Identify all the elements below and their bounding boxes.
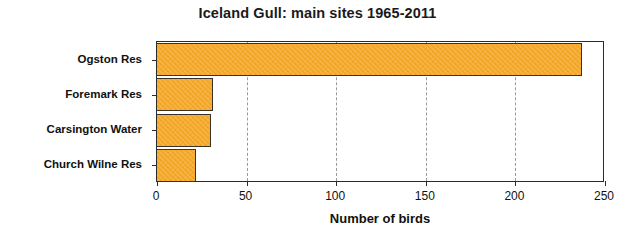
bar-row [157,43,603,76]
x-tick-100 [336,181,337,186]
y-tick-1 [152,95,157,96]
bars-layer [157,42,603,181]
bar-0[interactable] [157,43,582,76]
x-tick-label-100: 100 [325,189,345,203]
y-axis-label-3: Church Wilne Res [44,158,142,170]
y-tick-3 [152,165,157,166]
x-tick-label-0: 0 [153,189,160,203]
x-tick-label-50: 50 [239,189,252,203]
x-tick-50 [247,181,248,186]
x-tick-label-250: 250 [594,189,614,203]
x-tick-label-200: 200 [504,189,524,203]
bar-row [157,149,603,182]
y-axis-label-1: Foremark Res [65,88,142,100]
x-axis-title: Number of birds [156,211,604,226]
bar-2[interactable] [157,114,211,147]
y-axis-label-2: Carsington Water [47,123,142,135]
x-tick-150 [426,181,427,186]
y-tick-0 [152,60,157,61]
x-tick-200 [515,181,516,186]
chart-figure: Iceland Gull: main sites 1965-2011 Ogsto… [0,0,635,243]
plot-area [156,41,604,182]
bar-row [157,78,603,111]
y-tick-2 [152,130,157,131]
x-tick-250 [605,181,606,186]
x-tick-label-150: 150 [415,189,435,203]
bar-row [157,114,603,147]
bar-1[interactable] [157,78,213,111]
bar-3[interactable] [157,149,196,182]
y-axis-category-labels: Ogston Res Foremark Res Carsington Water… [0,41,150,182]
x-tick-0 [157,181,158,186]
chart-title: Iceland Gull: main sites 1965-2011 [0,5,635,21]
y-axis-label-0: Ogston Res [77,53,142,65]
